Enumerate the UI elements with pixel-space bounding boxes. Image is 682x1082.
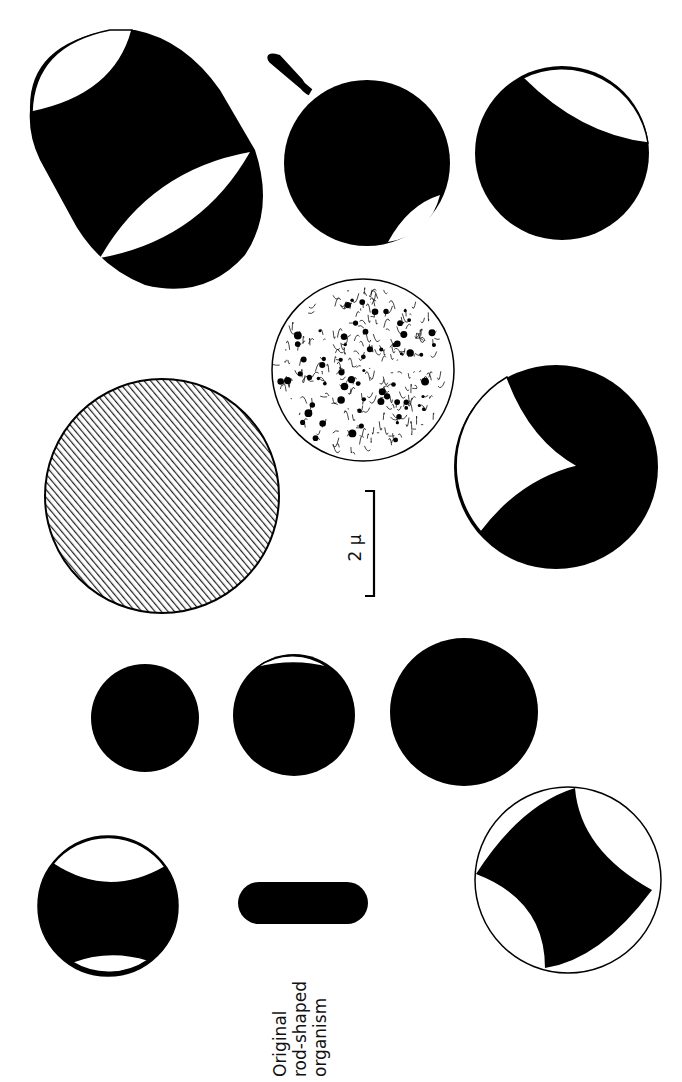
caption: Original rod-shaped organism (270, 981, 330, 1077)
large-solid-cell (390, 638, 538, 786)
capped-cell-top-right (475, 66, 649, 240)
caption-line-2: rod-shaped (290, 981, 310, 1077)
tilted-capsule-cell (475, 787, 661, 973)
hatched-cell (45, 379, 279, 613)
capsule-cell-top-left (30, 30, 263, 289)
capped-cell-middle (233, 654, 355, 776)
scale-bar-label: 2 μ (345, 534, 365, 561)
granular-cell (272, 279, 454, 461)
scale-bar: 2 μ (345, 491, 374, 596)
rod-shaped-organism (238, 882, 368, 924)
l-form-diagram: 2 μ Original rod-shaped organism (0, 0, 682, 1082)
wedge-cell (454, 365, 658, 569)
double-capped-cell (38, 836, 178, 976)
small-solid-cell (91, 664, 199, 772)
caption-line-1: Original (270, 1010, 290, 1077)
tailed-cell (271, 57, 450, 246)
caption-line-3: organism (310, 998, 330, 1077)
